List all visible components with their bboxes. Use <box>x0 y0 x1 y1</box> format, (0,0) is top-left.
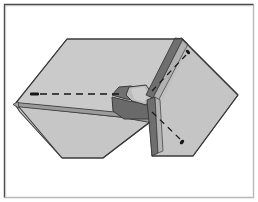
dashed-line-left-lead-dot <box>30 93 39 96</box>
figure-container: Folded sheet fold-line diagram <box>0 0 258 202</box>
fold-diagram: Folded sheet fold-line diagram <box>0 0 258 202</box>
